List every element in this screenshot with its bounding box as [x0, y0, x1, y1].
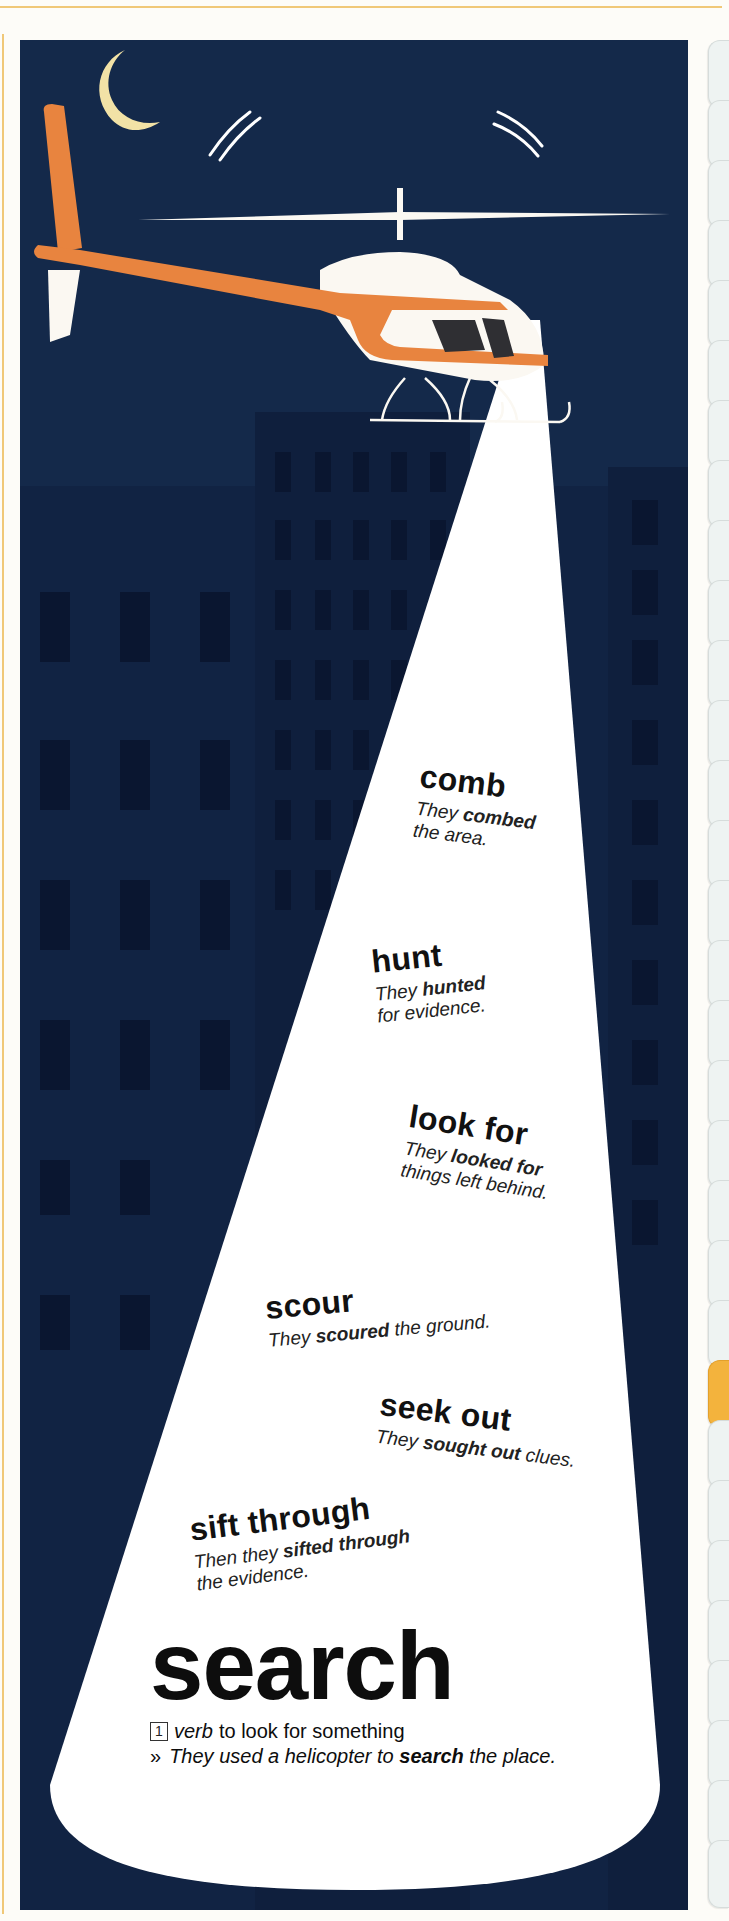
- thumb-tab[interactable]: [708, 40, 729, 108]
- entry-definition: 1 verb to look for something: [150, 1720, 556, 1743]
- example-marker: »: [150, 1745, 161, 1767]
- thumb-tab[interactable]: [708, 1660, 729, 1728]
- entry-headword: search: [150, 1618, 556, 1714]
- thumb-tab[interactable]: [708, 760, 729, 828]
- synonym-comb: comb They combedthe area.: [412, 760, 541, 856]
- sense-number-box: 1: [150, 1722, 168, 1741]
- thumb-tab[interactable]: [708, 520, 729, 588]
- thumb-tab[interactable]: [708, 1600, 729, 1668]
- thumb-tab[interactable]: [708, 820, 729, 888]
- main-entry: search 1 verb to look for something »The…: [150, 1618, 556, 1768]
- thumb-tab[interactable]: [708, 1000, 729, 1068]
- thumb-tab[interactable]: [708, 580, 729, 648]
- thumb-tab[interactable]: [708, 1780, 729, 1848]
- thumb-tab[interactable]: [708, 400, 729, 468]
- thumb-tab[interactable]: [708, 340, 729, 408]
- thumb-tab[interactable]: [708, 1480, 729, 1548]
- thumb-tab[interactable]: [708, 1540, 729, 1608]
- thumb-tab[interactable]: [708, 160, 729, 228]
- thumb-tab[interactable]: [708, 280, 729, 348]
- thumb-tab[interactable]: [708, 1840, 729, 1908]
- thumb-tab[interactable]: [708, 1300, 729, 1368]
- definition-text: to look for something: [219, 1720, 405, 1743]
- thumb-tab[interactable]: [708, 1420, 729, 1488]
- thumb-tab[interactable]: [708, 640, 729, 708]
- thumb-tab[interactable]: [708, 940, 729, 1008]
- thumb-tab[interactable]: [708, 880, 729, 948]
- thumb-tab-active[interactable]: [708, 1360, 729, 1428]
- thumb-tab[interactable]: [708, 1120, 729, 1188]
- thumb-tab[interactable]: [708, 1240, 729, 1308]
- thumb-tab[interactable]: [708, 100, 729, 168]
- thumb-tab[interactable]: [708, 220, 729, 288]
- thumb-tab[interactable]: [708, 1720, 729, 1788]
- thumb-tab[interactable]: [708, 700, 729, 768]
- thumb-tab[interactable]: [708, 1060, 729, 1128]
- thumb-tab[interactable]: [708, 460, 729, 528]
- synonym-hunt: hunt They huntedfor evidence.: [370, 934, 489, 1027]
- thumb-index-tabs: [708, 40, 722, 1920]
- left-rule: [2, 34, 4, 1914]
- entry-example: »They used a helicopter to search the pl…: [150, 1745, 556, 1768]
- top-rule: [0, 6, 722, 8]
- thumb-tab[interactable]: [708, 1180, 729, 1248]
- part-of-speech: verb: [174, 1720, 213, 1743]
